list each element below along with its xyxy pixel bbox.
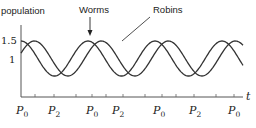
robins-label: Robins [153, 4, 183, 15]
population-chart: population 1.5 1 Worms Robins P0P2P0P2P0… [0, 0, 256, 128]
x-tick-label: P2 [111, 104, 124, 119]
x-tick-labels: P0P2P0P2P0P2P0 [15, 104, 240, 119]
worms-label: Worms [79, 4, 109, 15]
arrow-head-icon [88, 30, 93, 36]
y-tick-1-5: 1.5 [1, 35, 17, 46]
x-tick-label: P0 [15, 104, 28, 119]
robins-curve [21, 41, 243, 76]
x-tick-label: P0 [152, 104, 165, 119]
x-tick-label: P0 [227, 104, 240, 119]
y-tick-1: 1 [9, 54, 15, 65]
x-tick-label: P2 [47, 104, 60, 119]
x-tick-label: P2 [188, 104, 201, 119]
robins-pointer [122, 17, 150, 41]
y-axis-title: population [1, 5, 45, 16]
x-axis-title: t [246, 90, 251, 103]
x-tick-label: P0 [85, 104, 98, 119]
